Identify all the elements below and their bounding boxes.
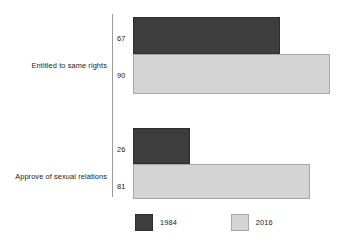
category-label-entitled-to-same-rights: Entitled to same rights [0,61,107,70]
value-label-group1-2016: 81 [117,182,125,191]
legend-label-1984: 1984 [160,218,177,227]
value-label-group0-2016: 90 [117,71,125,80]
bar-group1-1984 [133,128,190,164]
legend-swatch-1984 [135,214,153,231]
bar-chart: Entitled to same rights Approve of sexua… [0,0,345,250]
legend-label-2016: 2016 [256,218,273,227]
legend-item-1984: 1984 [135,214,177,231]
value-label-group1-1984: 26 [117,145,125,154]
category-label-approve-of-sexual-relations: Approve of sexual relations [0,172,107,181]
legend-item-2016: 2016 [231,214,273,231]
legend-swatch-2016 [231,214,249,231]
bar-group0-2016 [133,54,330,94]
category-axis-line [112,14,113,197]
bar-group0-1984 [133,17,280,54]
bar-group1-2016 [133,164,310,199]
value-label-group0-1984: 67 [117,34,125,43]
chart-legend: 1984 2016 [135,214,273,231]
